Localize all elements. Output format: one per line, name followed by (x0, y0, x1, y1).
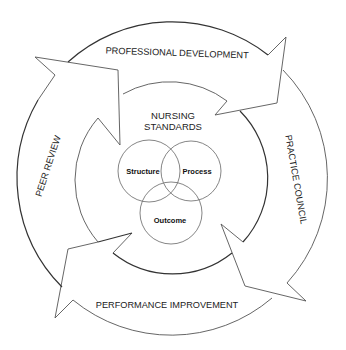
label-professional-development: PROFESSIONAL DEVELOPMENT (105, 46, 249, 61)
arrow-practice-council: PRACTICE COUNCIL (221, 70, 327, 301)
nursing-practice-cycle-diagram: PROFESSIONAL DEVELOPMENT PRACTICE COUNCI… (0, 0, 346, 350)
venn-label-process: Process (182, 167, 211, 176)
venn-circle-outcome (140, 182, 202, 244)
venn-label-structure: Structure (126, 167, 159, 176)
arrow-professional-development: PROFESSIONAL DEVELOPMENT (68, 22, 286, 115)
arrow-performance-improvement: PERFORMANCE IMPROVEMENT (55, 233, 272, 335)
label-performance-improvement: PERFORMANCE IMPROVEMENT (96, 300, 239, 310)
center-title-line1: NURSING (151, 110, 195, 121)
label-peer-review: PEER REVIEW (34, 134, 63, 198)
venn-diagram: Structure Process Outcome (118, 140, 221, 244)
center-title-line2: STANDARDS (144, 121, 202, 132)
venn-label-outcome: Outcome (154, 216, 187, 225)
nursing-standards-core: NURSING STANDARDS (144, 110, 202, 132)
arrow-peer-review: PEER REVIEW (17, 57, 120, 287)
label-practice-council: PRACTICE COUNCIL (283, 134, 309, 225)
